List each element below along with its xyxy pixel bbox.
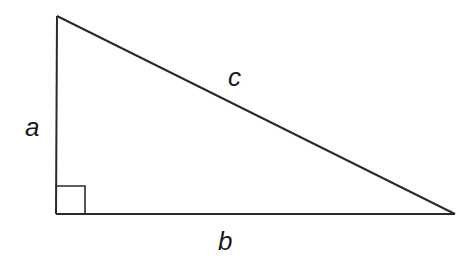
- side-a: [56, 16, 57, 214]
- label-a: a: [25, 112, 39, 142]
- right-triangle-diagram: a c b: [0, 0, 474, 276]
- label-b: b: [218, 226, 232, 256]
- label-c: c: [228, 62, 241, 92]
- right-angle-marker: [57, 186, 85, 214]
- triangle: [56, 16, 455, 214]
- side-c-hypotenuse: [57, 16, 455, 214]
